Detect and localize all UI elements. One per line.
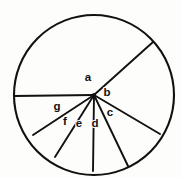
label-e: e (76, 117, 82, 129)
label-c: c (107, 106, 114, 118)
label-f: f (63, 115, 67, 127)
label-a: a (85, 71, 92, 83)
label-g: g (53, 100, 60, 112)
geometry-figure: a b c d e f g (0, 0, 181, 178)
angle-labels-group: a b c d e f g (53, 71, 113, 129)
common-vertex (92, 93, 96, 97)
circle-angles-diagram: a b c d e f g (0, 0, 181, 178)
radius-bottom (93, 95, 94, 171)
radii-group (14, 42, 160, 171)
label-b: b (103, 86, 110, 98)
radius-bottom-left (55, 95, 94, 157)
label-d: d (91, 117, 98, 129)
radius-left (14, 95, 94, 96)
